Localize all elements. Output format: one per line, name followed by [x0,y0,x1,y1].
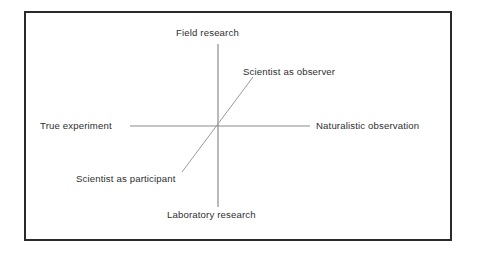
label-field-research: Field research [176,27,239,39]
label-scientist-as-participant: Scientist as participant [76,173,176,185]
label-naturalistic-observation: Naturalistic observation [316,120,419,132]
figure-root: Field research Scientist as observer Tru… [0,0,477,257]
label-laboratory-research: Laboratory research [167,209,256,221]
label-scientist-as-observer: Scientist as observer [243,66,335,78]
label-true-experiment: True experiment [40,120,112,132]
